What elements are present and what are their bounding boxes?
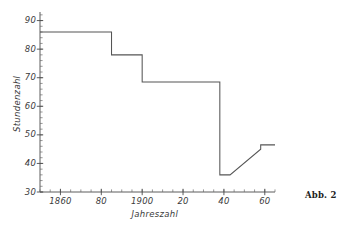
data-series-line-0 [40,32,275,175]
figure-caption: Abb. 2 [305,190,337,200]
x-axis-title: Jahreszahl [132,209,179,219]
x-tick-label: 1860 [43,196,77,206]
y-tick-label: 40 [14,158,36,168]
y-tick-label: 80 [14,44,36,54]
y-tick-label: 30 [14,187,36,197]
x-tick-label: 60 [248,196,282,206]
y-tick-label: 90 [14,15,36,25]
figure-container: 30405060708090 1860801900204060 Stundenz… [0,0,350,235]
y-axis-title: Stundenzahl [12,76,22,132]
x-tick-label: 20 [166,196,200,206]
x-tick-label: 40 [207,196,241,206]
x-tick-label: 80 [84,196,118,206]
x-tick-label: 1900 [125,196,159,206]
